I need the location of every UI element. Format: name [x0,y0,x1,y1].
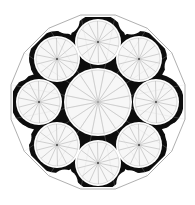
satellite-circle-bottom [75,140,121,186]
satellite-circle-left [16,79,62,125]
circle-packing-figure [0,0,195,205]
geometric-diagram [0,0,195,205]
satellite-circle-top [75,19,121,65]
center-dot [138,58,140,60]
center-dot [138,144,140,146]
satellite-circle-upper-left [34,36,80,82]
center-dot [56,144,58,146]
center-dot [97,41,99,43]
satellite-circle-lower-left [34,122,80,168]
center-dot [56,58,58,60]
center-dot [38,101,40,103]
satellite-circle-lower-right [116,122,162,168]
satellite-circle-upper-right [116,36,162,82]
center-dot [155,101,157,103]
center-dot [97,162,99,164]
circles-layer [11,15,185,189]
satellite-circle-right [133,79,179,125]
